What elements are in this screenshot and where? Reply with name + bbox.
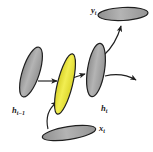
node-x-t-ellipse [41, 122, 96, 143]
label-h-t-sub: t [106, 108, 108, 114]
rnn-diagram-figure: ht−1 ht xt yt [0, 0, 153, 152]
node-gate-ellipse [50, 52, 80, 116]
label-y-t-sub: t [95, 10, 97, 16]
diagram-canvas: ht−1 ht xt yt [0, 0, 153, 152]
edge-ht-to-yt [104, 26, 121, 55]
node-h-prev-ellipse [15, 45, 47, 100]
label-h-prev: ht−1 [12, 105, 25, 116]
label-y-t: yt [90, 5, 97, 16]
node-h-t-ellipse [83, 42, 108, 98]
node-h-prev [15, 45, 47, 100]
node-y-t-ellipse [98, 6, 149, 22]
label-h-t: ht [101, 103, 108, 114]
node-h-t [83, 42, 108, 98]
label-x-t-sub: t [103, 128, 105, 134]
node-x-t [41, 122, 96, 143]
label-x-t: xt [98, 123, 105, 134]
edge-ht-to-yt-path [104, 26, 121, 55]
node-gate [50, 52, 80, 116]
edge-ht-to-next [105, 75, 136, 80]
node-y-t [98, 6, 149, 22]
label-h-prev-sub: t−1 [17, 110, 25, 116]
edge-ht-to-next-path [105, 75, 136, 80]
